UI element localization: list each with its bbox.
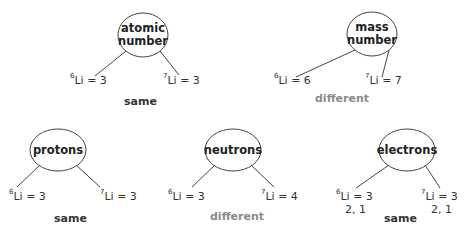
bubble-electrons: electrons [379,129,435,171]
isotope-label-right: 7Li = 3 [163,74,200,87]
verdict-label: different [210,210,264,223]
electron-config-right: 2, 1 [431,203,452,216]
verdict-label: same [54,212,87,225]
value: = 3 [353,190,373,203]
value: = 3 [26,190,46,203]
mass-superscript: 7 [100,188,104,196]
mass-superscript: 6 [274,72,278,80]
bubble-mass-number: massnumber [347,12,397,56]
verdict-label: same [124,95,157,108]
element-symbol: Li [278,74,287,87]
element-symbol: Li [167,74,176,87]
isotope-label-left: 6Li = 6 [274,74,311,87]
element-symbol: Li [425,190,434,203]
element-symbol: Li [74,74,83,87]
isotope-label-right: 7Li = 3 [100,190,137,203]
bubble-title: protons [33,144,83,157]
value: = 3 [117,190,137,203]
value: = 4 [278,190,298,203]
bubble-atomic-number: atomicnumber [118,13,168,57]
mass-superscript: 6 [168,188,172,196]
element-symbol: Li [13,190,22,203]
isotope-label-left: 6Li = 3 [168,190,205,203]
element-symbol: Li [265,190,274,203]
mass-superscript: 7 [163,72,167,80]
mass-superscript: 6 [9,188,13,196]
bubble-neutrons: neutrons [205,129,261,171]
isotope-label-right: 7Li = 7 [365,74,402,87]
isotope-label-left: 6Li = 3 [336,190,373,203]
value: = 3 [180,74,200,87]
mass-superscript: 7 [365,72,369,80]
isotope-label-left: 6Li = 3 [70,74,107,87]
isotope-label-right: 7Li = 3 [421,190,458,203]
verdict-label: same [384,212,417,225]
element-symbol: Li [104,190,113,203]
value: = 3 [438,190,458,203]
value: = 7 [382,74,402,87]
mass-superscript: 6 [336,188,340,196]
isotope-label-left: 6Li = 3 [9,190,46,203]
bubble-title: electrons [377,144,437,157]
value: = 6 [291,74,311,87]
bubble-protons: protons [30,129,86,171]
value: = 3 [87,74,107,87]
element-symbol: Li [369,74,378,87]
mass-superscript: 6 [70,72,74,80]
isotope-label-right: 7Li = 4 [261,190,298,203]
mass-superscript: 7 [261,188,265,196]
verdict-label: different [315,92,369,105]
mass-superscript: 7 [421,188,425,196]
bubble-title: neutrons [204,144,262,157]
electron-config-left: 2, 1 [345,203,366,216]
element-symbol: Li [172,190,181,203]
value: = 3 [185,190,205,203]
bubble-title-line2: number [347,34,397,47]
element-symbol: Li [340,190,349,203]
bubble-title-line2: number [118,35,168,48]
